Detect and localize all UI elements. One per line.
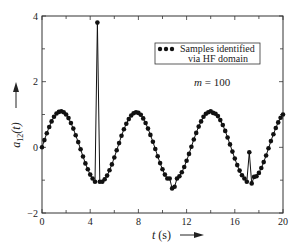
data-point [172, 184, 177, 189]
data-point [114, 148, 119, 153]
x-axis-label: t (s) [152, 228, 171, 242]
x-tick-label: 4 [88, 216, 93, 227]
data-point [160, 167, 165, 172]
svg-text:a12(t): a12(t) [9, 122, 25, 147]
data-point [45, 131, 50, 136]
y-tick-label: 4 [33, 11, 38, 22]
data-point [189, 144, 194, 149]
data-point [276, 120, 281, 125]
data-point [182, 165, 187, 170]
data-point [122, 127, 127, 132]
data-point [194, 131, 199, 136]
data-point [76, 140, 81, 145]
y-tick-label: −2 [27, 208, 38, 219]
data-point [155, 154, 160, 159]
data-point [218, 118, 223, 123]
data-point [81, 154, 86, 159]
data-point [124, 121, 129, 126]
data-point [192, 137, 197, 142]
data-point [167, 176, 172, 181]
x-tick-label: 16 [230, 216, 240, 227]
y-axis-label: a12(t) [9, 122, 25, 147]
data-point [73, 133, 78, 138]
legend-marker-icon [170, 47, 174, 51]
data-point [153, 147, 158, 152]
data-point [40, 145, 45, 150]
data-point [110, 162, 115, 167]
data-point [119, 134, 124, 139]
data-point [199, 119, 204, 124]
legend-line-2: via HF domain [188, 53, 248, 64]
legend-marker-icon [164, 47, 168, 51]
data-point [141, 116, 146, 121]
legend-marker-icon [158, 47, 162, 51]
data-point [66, 116, 71, 121]
data-point [47, 125, 52, 130]
data-point [112, 155, 117, 160]
data-point [196, 124, 201, 129]
data-point [261, 160, 266, 165]
m-annotation: m = 100 [194, 76, 231, 88]
data-point [107, 168, 112, 173]
legend: Samples identified via HF domain [155, 43, 260, 64]
data-point [177, 174, 182, 179]
y-tick-label: 2 [33, 76, 38, 87]
data-point [187, 152, 192, 157]
data-point [271, 132, 276, 137]
data-point [86, 167, 91, 172]
data-point [233, 156, 238, 161]
data-point [95, 20, 100, 25]
data-point [148, 133, 153, 138]
x-axis-arrow-icon [180, 232, 204, 238]
x-tick-label: 20 [278, 216, 288, 227]
data-point [93, 180, 98, 185]
data-point [274, 126, 279, 131]
data-point [83, 161, 88, 166]
y-tick-label: 0 [33, 142, 38, 153]
x-tick-label: 8 [136, 216, 141, 227]
data-point [117, 141, 122, 146]
data-point [49, 119, 54, 124]
data-point [69, 121, 74, 126]
data-point [105, 173, 110, 178]
data-point [259, 166, 264, 171]
data-point [266, 146, 271, 151]
data-point [228, 142, 233, 147]
data-point [225, 135, 230, 140]
data-point [221, 123, 226, 128]
x-tick-label: 12 [182, 216, 192, 227]
x-tick-label: 0 [40, 216, 45, 227]
data-point [237, 168, 242, 173]
data-point [269, 139, 274, 144]
data-point [216, 114, 221, 119]
data-point [88, 172, 93, 177]
data-point [151, 140, 156, 145]
data-point [247, 150, 252, 155]
data-point [235, 163, 240, 168]
data-point [71, 126, 76, 131]
data-point [143, 121, 148, 126]
data-point [163, 172, 168, 177]
y-axis-arrow-icon [13, 82, 19, 108]
data-point [249, 181, 254, 186]
data-point [42, 138, 47, 143]
data-point [180, 170, 185, 175]
data-point [245, 180, 250, 185]
data-point [158, 161, 163, 166]
m-value: = 100 [202, 76, 231, 88]
data-point [264, 153, 269, 158]
data-point [184, 159, 189, 164]
data-point [78, 147, 83, 152]
data-point [257, 171, 262, 176]
data-point [146, 126, 151, 131]
data-point [281, 112, 286, 117]
chart-svg: 048121620−2024 Samples identified via HF… [0, 0, 299, 249]
data-point [223, 129, 228, 134]
data-point [230, 149, 235, 154]
